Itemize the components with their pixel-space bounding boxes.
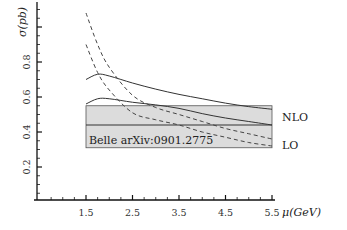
x-tick-label: 1.5 — [78, 207, 93, 218]
y-tick-label: 0.6 — [21, 89, 32, 104]
x-tick-label: 5.5 — [264, 207, 279, 218]
y-tick-label: 0.8 — [21, 54, 32, 69]
y-tick-label: 0.2 — [21, 159, 32, 174]
lo-label: LO — [282, 139, 298, 152]
cross-section-chart: Belle arXiv:0901.2775 0.20.40.60.8 1.52.… — [0, 0, 347, 230]
y-axis-title: σ(pb) — [16, 7, 29, 37]
y-tick-label: 0.4 — [21, 124, 32, 139]
x-tick-label: 2.5 — [125, 207, 140, 218]
belle-band-label: Belle arXiv:0901.2775 — [89, 134, 213, 147]
x-axis-title: μ(GeV) — [282, 206, 321, 219]
x-tick-label: 3.5 — [171, 207, 186, 218]
x-ticks: 1.52.53.54.55.5 — [51, 195, 279, 218]
nlo-label: NLO — [282, 111, 308, 124]
x-tick-label: 4.5 — [218, 207, 233, 218]
nlo-curve — [86, 74, 272, 109]
